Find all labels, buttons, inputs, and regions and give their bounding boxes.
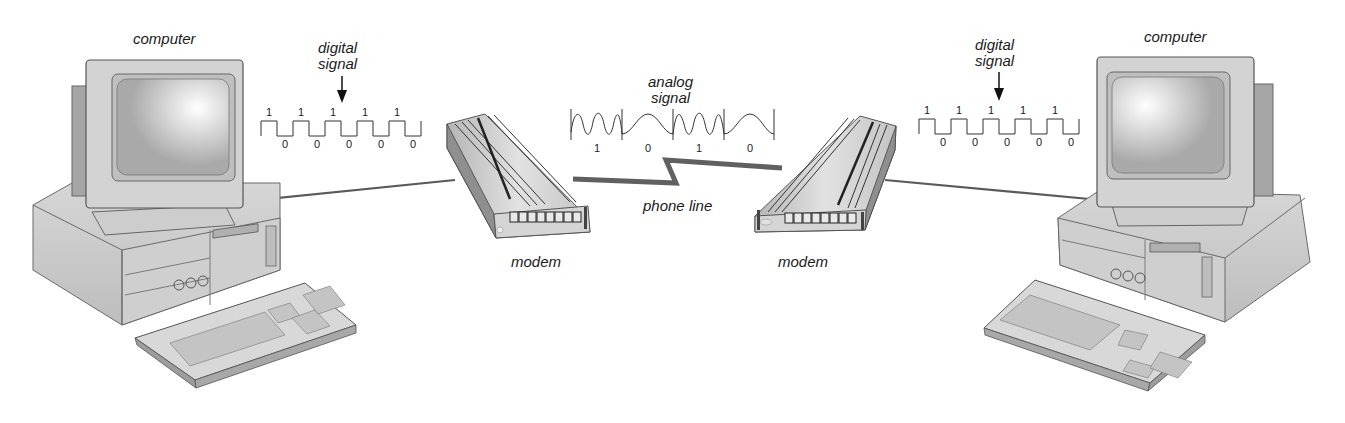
bit-zero: 0 bbox=[970, 136, 980, 148]
analog-bit: 0 bbox=[643, 142, 653, 154]
analog-bit: 1 bbox=[592, 142, 602, 154]
bit-zero: 0 bbox=[312, 138, 322, 150]
right-computer bbox=[984, 57, 1310, 391]
left-digital-signal-label-line1: digital bbox=[318, 40, 357, 56]
right-digital-signal-label-line2: signal bbox=[975, 53, 1014, 69]
right-digital-arrow-icon bbox=[994, 72, 1004, 101]
left-modem bbox=[447, 114, 590, 238]
bit-one: 1 bbox=[922, 104, 932, 116]
left-digital-signal-label: digital signal bbox=[318, 40, 357, 72]
analog-signal-label-line1: analog bbox=[648, 74, 693, 90]
left-computer-label: computer bbox=[133, 31, 196, 47]
bit-one: 1 bbox=[360, 106, 370, 118]
analog-signal-label: analog signal bbox=[648, 74, 693, 106]
bit-one: 1 bbox=[1018, 104, 1028, 116]
right-digital-signal-label-line1: digital bbox=[975, 37, 1014, 53]
phone-line-cable bbox=[573, 160, 782, 183]
bit-one: 1 bbox=[1050, 104, 1060, 116]
left-digital-arrow-icon bbox=[337, 76, 347, 103]
left-digital-signal-label-line2: signal bbox=[318, 56, 357, 72]
bit-zero: 0 bbox=[1066, 136, 1076, 148]
bit-zero: 0 bbox=[280, 138, 290, 150]
right-computer-modem-cable bbox=[885, 180, 1100, 200]
bit-one: 1 bbox=[296, 106, 306, 118]
right-modem bbox=[755, 116, 896, 232]
bit-one: 1 bbox=[954, 104, 964, 116]
bit-zero: 0 bbox=[1034, 136, 1044, 148]
right-modem-label: modem bbox=[778, 254, 828, 270]
bit-one: 1 bbox=[986, 104, 996, 116]
left-digital-waveform bbox=[261, 121, 421, 136]
analog-signal-label-line2: signal bbox=[648, 90, 693, 106]
analog-bit: 1 bbox=[694, 142, 704, 154]
phone-line-label: phone line bbox=[643, 198, 712, 214]
bit-one: 1 bbox=[328, 106, 338, 118]
bit-one: 1 bbox=[392, 106, 402, 118]
left-modem-label: modem bbox=[511, 254, 561, 270]
analog-bit: 0 bbox=[745, 142, 755, 154]
analog-waveform bbox=[571, 109, 774, 140]
right-digital-signal-label: digital signal bbox=[975, 37, 1014, 69]
bit-zero: 0 bbox=[344, 138, 354, 150]
bit-one: 1 bbox=[264, 106, 274, 118]
left-computer bbox=[33, 60, 356, 388]
bit-zero: 0 bbox=[376, 138, 386, 150]
right-computer-label: computer bbox=[1144, 29, 1207, 45]
bit-zero: 0 bbox=[938, 136, 948, 148]
bit-zero: 0 bbox=[408, 138, 418, 150]
right-digital-waveform bbox=[919, 119, 1079, 134]
bit-zero: 0 bbox=[1002, 136, 1012, 148]
